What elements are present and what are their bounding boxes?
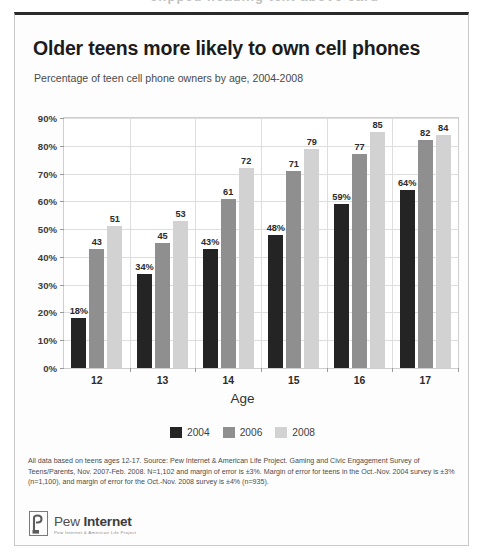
y-tick-label: 50%: [38, 224, 57, 235]
y-tick-mark: [60, 257, 64, 258]
bar-2006-age-13: [155, 243, 170, 368]
x-tick-mark: [392, 368, 393, 372]
y-tick-label: 30%: [38, 279, 57, 290]
x-tick-label-17: 17: [419, 375, 431, 386]
bar-value-label: 51: [110, 214, 120, 224]
x-gridline: [261, 118, 262, 368]
pew-logo-name-bold: Internet: [83, 514, 131, 529]
x-tick-label-16: 16: [354, 375, 366, 386]
bar-value-label: 45: [157, 231, 167, 241]
bar-value-label: 34%: [135, 262, 153, 272]
bar-2008-age-15: [304, 149, 319, 368]
legend-swatch-2008: [275, 427, 287, 438]
pew-logo-name-light: Pew: [54, 514, 83, 529]
bar-2004-age-17: [400, 190, 415, 368]
y-tick-mark: [60, 118, 64, 119]
chart-subtitle: Percentage of teen cell phone owners by …: [34, 72, 303, 84]
pew-logo-text-wrap: Pew Internet Pew Internet & American Lif…: [54, 514, 136, 535]
y-tick-label: 90%: [38, 113, 57, 124]
bar-2008-age-14: [239, 168, 254, 368]
x-tick-mark: [327, 368, 328, 372]
page-scan-artifact: clipped heading text above card: [0, 0, 485, 10]
legend-item-2006[interactable]: 2006: [223, 427, 263, 438]
bar-value-label: 71: [289, 159, 299, 169]
y-tick-mark: [60, 312, 64, 313]
x-gridline: [327, 118, 328, 368]
x-tick-mark: [195, 368, 196, 372]
bar-2008-age-16: [370, 132, 385, 368]
bar-2006-age-12: [89, 249, 104, 368]
legend-item-2004[interactable]: 2004: [170, 427, 210, 438]
bar-value-label: 85: [372, 120, 382, 130]
pew-internet-logo: Pew Internet Pew Internet & American Lif…: [29, 511, 136, 536]
legend-item-2008[interactable]: 2008: [275, 427, 315, 438]
chart-plot-wrapper: 0%10%20%30%40%50%60%70%80%90%18%43511234…: [63, 117, 459, 369]
bar-2004-age-13: [137, 274, 152, 368]
bar-value-label: 79: [307, 137, 317, 147]
x-tick-mark: [458, 368, 459, 372]
legend-swatch-2006: [223, 427, 235, 438]
bar-2008-age-17: [436, 135, 451, 368]
chart-card: Older teens more likely to own cell phon…: [14, 12, 469, 546]
bar-2004-age-14: [203, 249, 218, 368]
x-tick-mark: [261, 368, 262, 372]
bar-2008-age-13: [173, 221, 188, 368]
bar-value-label: 59%: [332, 192, 350, 202]
y-tick-label: 40%: [38, 251, 57, 262]
y-tick-mark: [60, 201, 64, 202]
bar-value-label: 43%: [201, 237, 219, 247]
bar-2004-age-16: [334, 204, 349, 368]
y-tick-mark: [60, 174, 64, 175]
pew-logo-name: Pew Internet: [54, 514, 136, 529]
bar-value-label: 64%: [398, 178, 416, 188]
legend-label-2006: 2006: [240, 427, 263, 438]
pew-logo-tagline: Pew Internet & American Life Project: [54, 530, 136, 535]
x-tick-label-15: 15: [288, 375, 300, 386]
page-scan-artifact-text: clipped heading text above card: [150, 0, 379, 4]
bar-2006-age-14: [221, 199, 236, 368]
x-gridline: [392, 118, 393, 368]
y-tick-label: 20%: [38, 307, 57, 318]
chart-legend: 200420062008: [15, 427, 470, 438]
bar-2006-age-16: [352, 154, 367, 368]
y-tick-label: 70%: [38, 168, 57, 179]
bar-value-label: 61: [223, 187, 233, 197]
pew-logo-glyph: [29, 511, 48, 536]
bar-value-label: 77: [354, 142, 364, 152]
y-tick-label: 0%: [43, 363, 57, 374]
x-gridline: [195, 118, 196, 368]
bar-2008-age-12: [107, 226, 122, 368]
bar-value-label: 82: [420, 128, 430, 138]
y-tick-mark: [60, 368, 64, 369]
bar-value-label: 53: [175, 209, 185, 219]
bar-value-label: 72: [241, 156, 251, 166]
y-tick-mark: [60, 285, 64, 286]
legend-swatch-2004: [170, 427, 182, 438]
bar-2006-age-15: [286, 171, 301, 368]
bar-value-label: 84: [438, 123, 448, 133]
legend-label-2004: 2004: [187, 427, 210, 438]
y-tick-label: 60%: [38, 196, 57, 207]
x-axis-title: Age: [15, 391, 470, 406]
y-tick-mark: [60, 229, 64, 230]
page-title: Older teens more likely to own cell phon…: [33, 37, 420, 60]
bar-value-label: 48%: [267, 223, 285, 233]
x-tick-label-13: 13: [157, 375, 169, 386]
bar-value-label: 43: [92, 237, 102, 247]
chart-plot-area: 0%10%20%30%40%50%60%70%80%90%18%43511234…: [63, 117, 459, 369]
y-tick-mark: [60, 340, 64, 341]
x-tick-label-14: 14: [222, 375, 234, 386]
bar-2006-age-17: [418, 140, 433, 368]
legend-label-2008: 2008: [292, 427, 315, 438]
x-gridline: [130, 118, 131, 368]
bar-2004-age-15: [268, 235, 283, 368]
bar-2004-age-12: [71, 318, 86, 368]
y-tick-mark: [60, 146, 64, 147]
x-tick-label-12: 12: [91, 375, 103, 386]
y-tick-label: 10%: [38, 335, 57, 346]
bar-value-label: 18%: [70, 306, 88, 316]
x-tick-mark: [130, 368, 131, 372]
y-tick-label: 80%: [38, 140, 57, 151]
pew-logo-icon: [29, 511, 48, 536]
chart-footnote: All data based on teens ages 12-17. Sour…: [28, 456, 460, 488]
